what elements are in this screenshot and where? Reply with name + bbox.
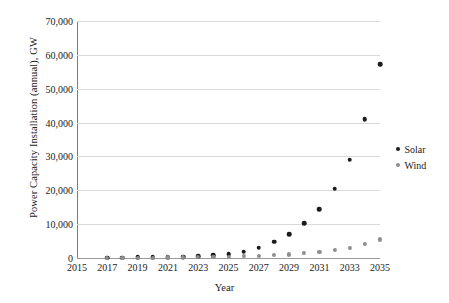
legend-marker-wind-icon <box>396 163 400 167</box>
legend-item-wind[interactable]: Wind <box>396 157 426 173</box>
y-axis-tick-labels: 010,00020,00030,00040,00050,00060,00070,… <box>18 0 73 303</box>
x-tick-label: 2031 <box>309 262 329 273</box>
gridline-30000 <box>77 156 380 157</box>
data-point-solar <box>378 62 383 67</box>
data-point-solar <box>347 158 352 163</box>
x-tick-label: 2035 <box>370 262 390 273</box>
data-point-solar <box>257 245 262 250</box>
y-tick-label: 40,000 <box>21 117 73 128</box>
gridline-60000 <box>77 55 380 56</box>
x-tick-label: 2023 <box>188 262 208 273</box>
data-point-solar <box>272 239 277 244</box>
data-point-solar <box>317 207 322 212</box>
x-tick-label: 2021 <box>158 262 178 273</box>
y-tick-label: 70,000 <box>21 16 73 27</box>
gridline-40000 <box>77 123 380 124</box>
chart-legend: SolarWind <box>396 141 426 173</box>
legend-item-solar[interactable]: Solar <box>396 141 426 157</box>
x-tick-label: 2029 <box>279 262 299 273</box>
plot-area <box>77 21 380 258</box>
data-point-solar <box>363 117 368 122</box>
gridline-10000 <box>77 224 380 225</box>
y-tick-label: 30,000 <box>21 151 73 162</box>
legend-label: Wind <box>404 160 426 171</box>
gridline-50000 <box>77 89 380 90</box>
y-tick-label: 50,000 <box>21 83 73 94</box>
legend-marker-solar-icon <box>396 147 400 151</box>
data-point-solar <box>241 249 246 254</box>
y-tick-label: 60,000 <box>21 49 73 60</box>
x-tick-label: 2033 <box>340 262 360 273</box>
x-tick-label: 2015 <box>67 262 87 273</box>
data-point-solar <box>332 186 337 191</box>
y-tick-label: 10,000 <box>21 219 73 230</box>
legend-label: Solar <box>404 144 425 155</box>
data-point-wind <box>378 237 382 241</box>
chart-figure: Power Capacity Installation (annual), GW… <box>0 0 449 303</box>
y-tick-label: 20,000 <box>21 185 73 196</box>
data-point-solar <box>302 221 307 226</box>
x-tick-label: 2025 <box>219 262 239 273</box>
x-tick-label: 2019 <box>128 262 148 273</box>
x-tick-label: 2027 <box>249 262 269 273</box>
x-tick-label: 2017 <box>97 262 117 273</box>
gridlines <box>77 21 380 258</box>
gridline-70000 <box>77 21 380 22</box>
data-point-solar <box>287 232 292 237</box>
x-axis-tick-labels: 2015201720192021202320252027202920312033… <box>0 262 449 280</box>
x-axis-title: Year <box>0 282 449 293</box>
